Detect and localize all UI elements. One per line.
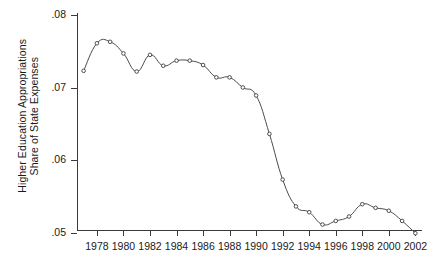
- series-line: [84, 39, 416, 233]
- data-point: [148, 53, 152, 57]
- data-point: [201, 63, 205, 67]
- data-point: [347, 215, 351, 219]
- data-point: [228, 76, 232, 80]
- data-point: [281, 178, 285, 182]
- data-point: [307, 210, 311, 214]
- data-point: [175, 59, 179, 63]
- data-point: [400, 219, 404, 223]
- data-point: [82, 69, 86, 73]
- chart-figure: Higher Education Appropriations Share of…: [0, 0, 433, 273]
- data-point: [294, 205, 298, 209]
- data-point: [241, 86, 245, 90]
- data-point: [374, 206, 378, 210]
- data-point: [414, 231, 418, 235]
- data-point: [360, 202, 364, 206]
- series-markers: [82, 40, 417, 235]
- data-point: [215, 76, 219, 80]
- series-plot: [0, 0, 433, 273]
- data-point: [108, 40, 112, 44]
- data-point: [268, 132, 272, 136]
- data-point: [387, 209, 391, 213]
- data-point: [122, 52, 126, 56]
- data-point: [135, 70, 139, 74]
- data-point: [321, 223, 325, 227]
- data-point: [188, 59, 192, 63]
- data-point: [95, 41, 99, 45]
- data-point: [254, 94, 258, 98]
- data-point: [334, 219, 338, 223]
- data-point: [161, 64, 165, 68]
